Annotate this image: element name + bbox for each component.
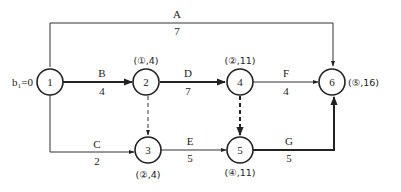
edge-F-name: F: [283, 67, 289, 79]
node-4-annotation: (②,11): [224, 55, 255, 66]
edge-F-duration: 4: [283, 85, 289, 97]
node-6-annotation: (⑤,16): [348, 77, 379, 88]
edge-B-duration: 4: [99, 85, 105, 97]
edge-A: A 7: [50, 8, 333, 67]
node-4-label: 4: [237, 76, 243, 88]
node-5-annotation: (④,11): [224, 167, 255, 178]
node-2-annotation: (①,4): [134, 55, 159, 66]
node-1-label: 1: [47, 76, 53, 88]
edge-C: C 2: [50, 95, 134, 167]
node-5: 5 (④,11): [224, 137, 255, 178]
node-3: 3 (②,4): [135, 137, 161, 180]
edge-E-name: E: [187, 135, 194, 147]
edge-A-duration: 7: [174, 25, 180, 37]
edge-A-name: A: [173, 8, 181, 20]
edge-F: F 4: [253, 67, 318, 97]
edge-B: B 4: [63, 67, 132, 97]
edge-C-name: C: [93, 138, 100, 150]
node-3-label: 3: [145, 144, 151, 156]
edge-G-duration: 5: [286, 152, 292, 164]
node-4: 4 (②,11): [224, 55, 255, 95]
node-2-label: 2: [143, 76, 149, 88]
node-6-label: 6: [329, 76, 335, 88]
node-3-annotation: (②,4): [136, 169, 161, 180]
node-6: 6 (⑤,16): [319, 69, 379, 95]
node-2: 2 (①,4): [133, 55, 159, 95]
edge-G: G 5: [253, 97, 334, 164]
node-5-label: 5: [237, 144, 243, 156]
edge-C-duration: 2: [94, 155, 100, 167]
edge-E-duration: 5: [187, 152, 193, 164]
edge-D-name: D: [184, 67, 192, 79]
edge-G-line: [253, 97, 334, 150]
edge-D: D 7: [160, 67, 225, 97]
edge-B-name: B: [98, 67, 105, 79]
network-diagram: A 7 B 4 C 2 D 7 E 5 F 4 G 5 b₁=0: [0, 0, 401, 192]
edge-C-line: [50, 95, 134, 152]
edge-A-line: [50, 23, 333, 67]
start-label: b₁=0: [12, 76, 34, 88]
edge-G-name: G: [285, 135, 293, 147]
node-1: 1: [37, 69, 63, 95]
edge-D-duration: 7: [185, 85, 191, 97]
edge-E: E 5: [161, 135, 226, 164]
